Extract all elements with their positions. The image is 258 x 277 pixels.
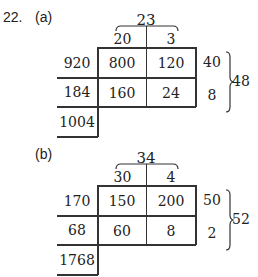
top-header-1: 20 — [100, 32, 145, 46]
top-header-2: 3 — [148, 32, 194, 46]
grid-line — [195, 185, 197, 245]
grid-line — [57, 244, 196, 246]
multiplier-total: 23 — [133, 13, 159, 27]
sum-value: 1768 — [57, 253, 97, 267]
problem-number: 22. — [3, 9, 22, 25]
left-value-1: 920 — [57, 56, 97, 70]
cell-r2c1: 160 — [98, 86, 146, 100]
cell-r1c2: 200 — [147, 194, 195, 208]
part-label: (a) — [35, 9, 52, 25]
cell-r2c1: 60 — [98, 224, 146, 238]
multiplier-total: 34 — [133, 151, 159, 165]
grid-line — [57, 106, 196, 108]
part-label: (b) — [35, 146, 52, 162]
grid-line — [57, 215, 196, 217]
grid-line — [57, 77, 196, 79]
right-value-1: 50 — [200, 193, 224, 207]
problem-22-part-b: (b) 34 30 4 170 68 150 200 60 8 50 2 52 … — [0, 138, 258, 277]
cell-r2c2: 8 — [147, 224, 195, 238]
right-total: 52 — [232, 212, 254, 226]
cell-r2c2: 24 — [147, 86, 195, 100]
sum-value: 1004 — [57, 115, 97, 129]
left-value-2: 184 — [57, 85, 97, 99]
cell-r1c1: 800 — [98, 56, 146, 70]
right-value-2: 8 — [200, 88, 224, 102]
grid-line — [195, 47, 197, 107]
right-total: 48 — [232, 74, 254, 88]
left-value-2: 68 — [57, 223, 97, 237]
problem-22-part-a: 22. (a) 23 20 3 920 184 800 120 160 24 4… — [0, 0, 258, 138]
grid-line — [57, 274, 98, 276]
top-header-2: 4 — [148, 170, 194, 184]
cell-r1c1: 150 — [98, 194, 146, 208]
right-value-1: 40 — [200, 55, 224, 69]
right-value-2: 2 — [200, 226, 224, 240]
top-header-1: 30 — [100, 170, 145, 184]
cell-r1c2: 120 — [147, 56, 195, 70]
left-value-1: 170 — [57, 194, 97, 208]
